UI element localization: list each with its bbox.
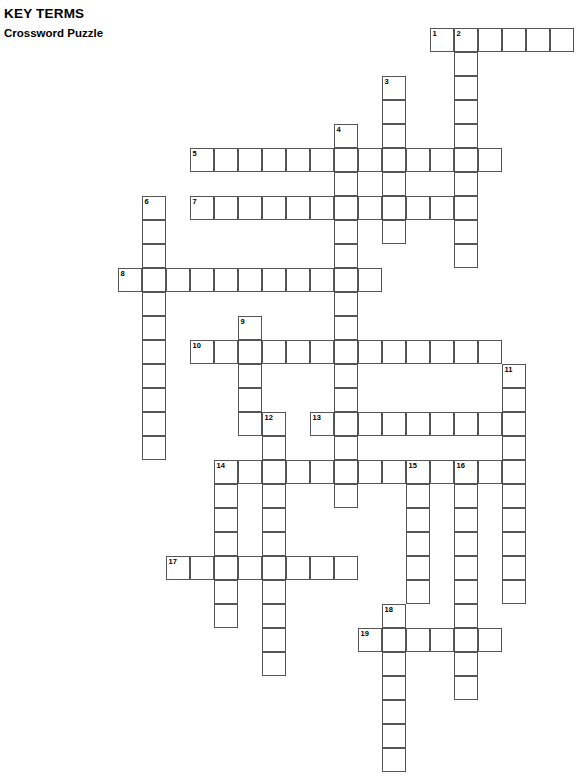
crossword-cell[interactable] (262, 196, 286, 220)
crossword-grid[interactable]: 12345678910111213141516171819 (0, 0, 586, 776)
crossword-cell-numbered-1[interactable]: 1 (430, 28, 454, 52)
crossword-cell[interactable] (382, 220, 406, 244)
crossword-cell[interactable] (478, 460, 502, 484)
crossword-cell[interactable] (454, 676, 478, 700)
crossword-cell[interactable] (382, 412, 406, 436)
crossword-cell[interactable] (214, 604, 238, 628)
crossword-cell[interactable] (166, 268, 190, 292)
crossword-cell[interactable] (382, 124, 406, 148)
crossword-cell[interactable] (262, 460, 286, 484)
crossword-cell[interactable] (334, 460, 358, 484)
crossword-cell[interactable] (334, 292, 358, 316)
crossword-cell[interactable] (214, 268, 238, 292)
crossword-cell[interactable] (430, 148, 454, 172)
crossword-cell[interactable] (406, 148, 430, 172)
crossword-cell[interactable] (262, 268, 286, 292)
crossword-cell[interactable] (502, 388, 526, 412)
crossword-cell[interactable] (358, 148, 382, 172)
crossword-cell[interactable] (430, 412, 454, 436)
crossword-cell[interactable] (262, 580, 286, 604)
crossword-cell[interactable] (238, 148, 262, 172)
crossword-cell[interactable] (310, 460, 334, 484)
crossword-cell[interactable] (334, 268, 358, 292)
crossword-cell[interactable] (454, 484, 478, 508)
crossword-cell[interactable] (454, 172, 478, 196)
crossword-cell[interactable] (502, 532, 526, 556)
crossword-cell-numbered-14[interactable]: 14 (214, 460, 238, 484)
crossword-cell[interactable] (358, 268, 382, 292)
crossword-cell[interactable] (214, 484, 238, 508)
crossword-cell[interactable] (358, 340, 382, 364)
crossword-cell[interactable] (214, 532, 238, 556)
crossword-cell[interactable] (478, 412, 502, 436)
crossword-cell[interactable] (334, 340, 358, 364)
crossword-cell[interactable] (142, 412, 166, 436)
crossword-cell[interactable] (286, 196, 310, 220)
crossword-cell[interactable] (142, 436, 166, 460)
crossword-cell[interactable] (214, 196, 238, 220)
crossword-cell[interactable] (334, 172, 358, 196)
crossword-cell[interactable] (454, 652, 478, 676)
crossword-cell[interactable] (286, 556, 310, 580)
crossword-cell[interactable] (502, 412, 526, 436)
crossword-cell[interactable] (454, 412, 478, 436)
crossword-cell[interactable] (502, 556, 526, 580)
crossword-cell[interactable] (334, 316, 358, 340)
crossword-cell[interactable] (262, 628, 286, 652)
crossword-cell[interactable] (406, 196, 430, 220)
crossword-cell[interactable] (286, 340, 310, 364)
crossword-cell[interactable] (430, 628, 454, 652)
crossword-cell[interactable] (406, 508, 430, 532)
crossword-cell[interactable] (214, 580, 238, 604)
crossword-cell[interactable] (502, 436, 526, 460)
crossword-cell[interactable] (286, 148, 310, 172)
crossword-cell[interactable] (454, 220, 478, 244)
crossword-cell[interactable] (262, 508, 286, 532)
crossword-cell-numbered-19[interactable]: 19 (358, 628, 382, 652)
crossword-cell[interactable] (142, 364, 166, 388)
crossword-cell[interactable] (502, 580, 526, 604)
crossword-cell[interactable] (310, 148, 334, 172)
crossword-cell[interactable] (478, 628, 502, 652)
crossword-cell[interactable] (502, 508, 526, 532)
crossword-cell[interactable] (454, 580, 478, 604)
crossword-cell[interactable] (262, 436, 286, 460)
crossword-cell[interactable] (478, 340, 502, 364)
crossword-cell[interactable] (262, 340, 286, 364)
crossword-cell-numbered-2[interactable]: 2 (454, 28, 478, 52)
crossword-cell-numbered-10[interactable]: 10 (190, 340, 214, 364)
crossword-cell[interactable] (382, 340, 406, 364)
crossword-cell[interactable] (262, 652, 286, 676)
crossword-cell[interactable] (214, 556, 238, 580)
crossword-cell[interactable] (454, 52, 478, 76)
crossword-cell[interactable] (334, 244, 358, 268)
crossword-cell[interactable] (310, 196, 334, 220)
crossword-cell[interactable] (406, 484, 430, 508)
crossword-cell[interactable] (142, 220, 166, 244)
crossword-cell[interactable] (430, 460, 454, 484)
crossword-cell-numbered-6[interactable]: 6 (142, 196, 166, 220)
crossword-cell-numbered-11[interactable]: 11 (502, 364, 526, 388)
crossword-cell[interactable] (262, 532, 286, 556)
crossword-cell[interactable] (478, 148, 502, 172)
crossword-cell[interactable] (382, 460, 406, 484)
crossword-cell-numbered-8[interactable]: 8 (118, 268, 142, 292)
crossword-cell[interactable] (238, 460, 262, 484)
crossword-cell[interactable] (310, 268, 334, 292)
crossword-cell[interactable] (262, 556, 286, 580)
crossword-cell[interactable] (406, 628, 430, 652)
crossword-cell[interactable] (454, 124, 478, 148)
crossword-cell[interactable] (238, 556, 262, 580)
crossword-cell[interactable] (310, 340, 334, 364)
crossword-cell[interactable] (382, 172, 406, 196)
crossword-cell[interactable] (454, 148, 478, 172)
crossword-cell[interactable] (238, 340, 262, 364)
crossword-cell[interactable] (190, 268, 214, 292)
crossword-cell[interactable] (382, 748, 406, 772)
crossword-cell[interactable] (142, 388, 166, 412)
crossword-cell[interactable] (358, 460, 382, 484)
crossword-cell[interactable] (382, 700, 406, 724)
crossword-cell[interactable] (334, 364, 358, 388)
crossword-cell[interactable] (334, 412, 358, 436)
crossword-cell[interactable] (382, 724, 406, 748)
